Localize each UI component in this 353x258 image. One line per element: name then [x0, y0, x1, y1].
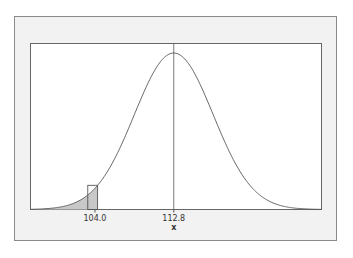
plot-area — [31, 44, 322, 210]
x-axis-label: x — [171, 223, 177, 232]
x-tick-label: 104.0 — [84, 214, 107, 223]
normal-distribution-chart: 104.0112.8 x — [0, 0, 353, 258]
x-tick-label: 112.8 — [162, 214, 185, 223]
